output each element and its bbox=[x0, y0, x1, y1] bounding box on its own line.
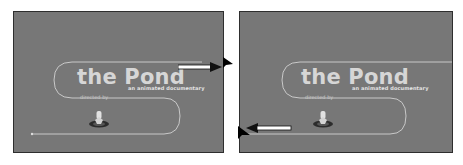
stage-panel-right[interactable]: the Pond an animated documentary directe… bbox=[239, 11, 453, 153]
stage-panel-left[interactable]: the Pond an animated documentary directe… bbox=[13, 11, 224, 153]
credit-text: directed by bbox=[80, 94, 108, 100]
arrow-right-icon bbox=[178, 61, 224, 73]
credit-text: directed by bbox=[305, 94, 333, 100]
character-figure-icon[interactable] bbox=[310, 108, 336, 130]
tagline-text: an animated documentary bbox=[128, 85, 205, 91]
mouse-cursor-icon bbox=[237, 125, 251, 141]
arrow-left-icon bbox=[246, 122, 292, 134]
mouse-cursor-icon bbox=[222, 56, 234, 70]
tagline-text: an animated documentary bbox=[352, 85, 429, 91]
character-figure-icon[interactable] bbox=[86, 108, 112, 130]
